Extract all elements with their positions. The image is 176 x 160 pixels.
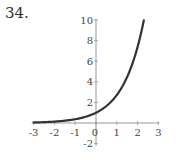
exponential-chart: -3-2-10123-2246810 [0,0,176,160]
y-tick-label: 4 [87,76,93,87]
x-tick-label: -1 [70,127,80,138]
y-tick-label: 2 [87,97,93,108]
x-tick-label: 3 [155,127,161,138]
x-tick-label: 1 [114,127,120,138]
y-tick-label: 10 [80,15,93,26]
y-tick-label: 8 [87,35,93,46]
x-tick-label: 0 [92,127,98,138]
x-tick-label: -2 [50,127,60,138]
y-tick-label: -2 [83,138,93,149]
x-tick-label: -3 [29,127,39,138]
y-tick-label: 6 [87,56,93,67]
x-tick-label: 2 [134,127,140,138]
